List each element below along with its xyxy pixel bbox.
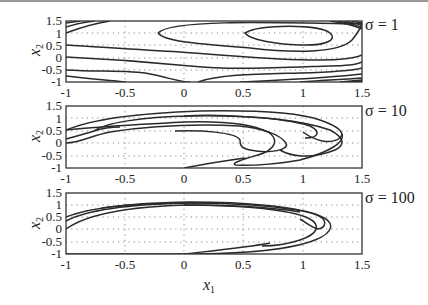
x-axis-label: x1 <box>202 276 215 295</box>
svg-text:1: 1 <box>300 257 307 272</box>
svg-text:0: 0 <box>181 171 188 186</box>
x-ticks: -1 -0.5 0 0.5 1 1.5 <box>61 85 371 100</box>
svg-text:1: 1 <box>300 171 307 186</box>
x-ticks: -1 -0.5 0 0.5 1 1.5 <box>61 171 371 186</box>
y-axis-label: x2 <box>26 217 45 230</box>
svg-text:-1: -1 <box>61 171 72 186</box>
contours <box>66 21 362 82</box>
contours <box>66 202 331 254</box>
panel-sigma-100: 1.5 1 0.5 0 -0.5 -1 -1 -0.5 0 0.5 1 1.5 … <box>26 185 415 295</box>
y-ticks: 1.5 1 0.5 0 -0.5 -1 <box>41 185 62 261</box>
y-ticks: 1.5 1 0.5 0 -0.5 -1 <box>41 13 62 89</box>
y-ticks: 1.5 1 0.5 0 -0.5 -1 <box>41 98 62 175</box>
y-axis-label: x2 <box>26 130 45 143</box>
panel-sigma-10: 1.5 1 0.5 0 -0.5 -1 -1 -0.5 0 0.5 1 1.5 … <box>26 98 407 186</box>
panel-sigma-1: 1.5 1 0.5 0 -0.5 -1 -1 -0.5 0 0.5 1 1.5 … <box>26 13 399 100</box>
sigma-label: σ = 10 <box>365 102 407 119</box>
svg-text:1.5: 1.5 <box>354 171 370 186</box>
svg-text:0.5: 0.5 <box>235 171 251 186</box>
svg-text:-1: -1 <box>61 257 72 272</box>
x-ticks: -1 -0.5 0 0.5 1 1.5 <box>61 257 371 272</box>
y-axis-label: x2 <box>26 44 45 57</box>
svg-text:0: 0 <box>181 85 188 100</box>
svg-text:1: 1 <box>300 85 307 100</box>
svg-text:-1: -1 <box>61 85 72 100</box>
svg-text:-0.5: -0.5 <box>115 85 136 100</box>
sigma-label: σ = 1 <box>365 16 399 33</box>
svg-text:1.5: 1.5 <box>354 257 370 272</box>
figure: 1.5 1 0.5 0 -0.5 -1 -1 -0.5 0 0.5 1 1.5 … <box>0 0 428 305</box>
svg-text:0.5: 0.5 <box>235 257 251 272</box>
svg-text:-0.5: -0.5 <box>115 257 136 272</box>
sigma-label: σ = 100 <box>365 189 415 206</box>
svg-text:0.5: 0.5 <box>235 85 251 100</box>
svg-text:-0.5: -0.5 <box>115 171 136 186</box>
svg-text:0: 0 <box>181 257 188 272</box>
contours <box>66 111 342 168</box>
svg-text:1.5: 1.5 <box>354 85 370 100</box>
